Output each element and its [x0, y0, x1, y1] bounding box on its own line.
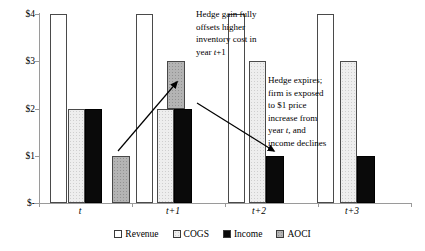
- bar-income-t2: [266, 156, 284, 203]
- bar-cogs-t3: [340, 61, 357, 203]
- hedge-accounting-bar-chart: RevenueCOGSIncomeAOCI $4$3$2$1$-tt+1t+2t…: [0, 0, 425, 251]
- chart-legend: RevenueCOGSIncomeAOCI: [0, 229, 425, 239]
- legend-label-income: Income: [234, 229, 263, 239]
- legend-item-revenue: Revenue: [114, 229, 158, 239]
- bar-cogs-t: [68, 109, 85, 204]
- legend-item-cogs: COGS: [173, 229, 209, 239]
- hedge-gain-note: Hedge gain fullyoffsets higherinventory …: [196, 8, 257, 58]
- bar-cogs-t1: [157, 109, 174, 204]
- x-axis-label-t: t: [79, 206, 82, 216]
- bar-income-t1: [174, 109, 192, 204]
- y-tick-label-4: $4: [6, 9, 35, 19]
- bar-cogs-t2: [249, 61, 266, 203]
- x-axis-label-t1: t+1: [166, 206, 180, 216]
- hedge-expires-note: Hedge expires;firm is exposedto $1 price…: [268, 74, 326, 150]
- legend-swatch-revenue-icon: [114, 230, 122, 238]
- y-tick-label--: $-: [6, 198, 35, 208]
- x-axis-tickmark: [39, 204, 40, 207]
- legend-swatch-cogs-icon: [173, 230, 181, 238]
- legend-item-aoci: AOCI: [276, 229, 310, 239]
- legend-swatch-aoci-icon: [276, 230, 284, 238]
- y-tick-label-2: $2: [6, 104, 35, 114]
- x-axis-label-t3: t+3: [345, 206, 359, 216]
- legend-label-revenue: Revenue: [125, 229, 158, 239]
- x-axis-tickmark: [132, 204, 133, 207]
- x-axis-tickmark: [318, 204, 319, 207]
- bar-income-t3: [357, 156, 375, 203]
- bar-aoci-t1-floating: [167, 61, 185, 108]
- legend-label-cogs: COGS: [184, 229, 209, 239]
- y-tick-label-1: $1: [6, 151, 35, 161]
- legend-item-income: Income: [223, 229, 263, 239]
- y-axis-tickmark: [35, 156, 39, 157]
- bar-revenue-t: [50, 14, 67, 203]
- bar-aoci-t: [112, 156, 130, 203]
- legend-label-aoci: AOCI: [287, 229, 310, 239]
- y-axis-tickmark: [35, 61, 39, 62]
- y-tick-label-3: $3: [6, 56, 35, 66]
- y-axis-line: [39, 13, 40, 204]
- legend-swatch-income-icon: [223, 230, 231, 238]
- x-axis-tickmark: [411, 204, 412, 207]
- bar-income-t: [85, 109, 102, 204]
- x-axis-label-t2: t+2: [252, 206, 266, 216]
- bar-revenue-t1: [136, 14, 153, 203]
- y-axis-tickmark: [35, 109, 39, 110]
- x-axis-tickmark: [225, 204, 226, 207]
- y-axis-tickmark: [35, 14, 39, 15]
